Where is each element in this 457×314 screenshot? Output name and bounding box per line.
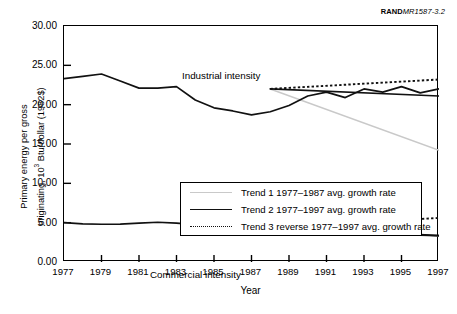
rand-doc-number: MR1587-3.2 [403,7,445,16]
annotation-commercial-intensity: Commercial intensity [150,269,241,280]
legend-line-trend2-icon [190,203,232,215]
plot-area: Industrial intensity Commercial intensit… [63,25,438,261]
legend-line-trend1-icon [190,186,232,198]
y-axis-title-line1: Primary energy per gross [19,104,29,208]
trend-line [270,79,439,88]
chart-legend: Trend 1 1977–1987 avg. growth rate Trend… [180,182,422,236]
legend-label-trend1: Trend 1 1977–1987 avg. growth rate [241,187,396,198]
x-tick-label: 1981 [127,266,148,277]
legend-item-trend3: Trend 3 reverse 1977–1997 avg. growth ra… [181,217,421,235]
x-tick-label: 1987 [240,266,261,277]
y-axis-title-line2-post: Btu/dollar (1982$) [35,87,45,164]
x-tick-label: 1979 [90,266,111,277]
x-tick-label: 1993 [352,266,373,277]
legend-item-trend1: Trend 1 1977–1987 avg. growth rate [181,183,421,201]
x-tick-label: 1977 [52,266,73,277]
x-tick-label: 1991 [315,266,336,277]
legend-item-trend2: Trend 2 1977–1997 avg. growth rate [181,200,421,218]
legend-line-trend3-icon [190,220,232,232]
legend-label-trend2: Trend 2 1977–1997 avg. growth rate [241,204,396,215]
annotation-industrial-intensity: Industrial intensity [182,70,260,81]
y-axis-title-exponent: 3 [33,164,40,168]
trend-line [270,89,439,150]
rand-logo-text: RAND [381,7,403,16]
rand-document-id: RANDMR1587-3.2 [381,7,445,16]
y-axis-title-line2-pre: originating, 10 [35,167,45,225]
x-tick-label: 1995 [390,266,411,277]
x-tick-label: 1985 [202,266,223,277]
y-axis-title: Primary energy per grossoriginating, 103… [19,47,46,267]
x-tick-label: 1983 [165,266,186,277]
y-tick-label: 30.00 [0,20,57,31]
legend-label-trend3: Trend 3 reverse 1977–1997 avg. growth ra… [241,221,431,232]
x-axis-title: Year [63,285,438,296]
x-tick-label: 1997 [427,266,448,277]
x-tick-label: 1989 [277,266,298,277]
figure: RANDMR1587-3.2 Primary energy per grosso… [0,0,457,314]
